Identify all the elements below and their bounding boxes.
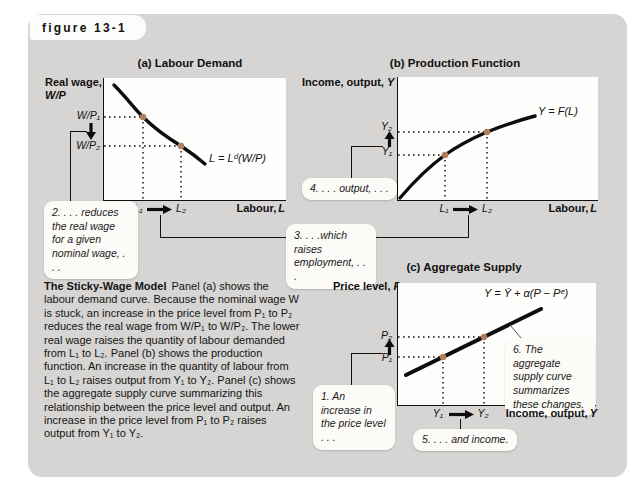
note-2: 2. . . . reduces the real wage for a giv… xyxy=(44,201,138,279)
right-arrow-icon xyxy=(448,409,475,420)
production-function-curve xyxy=(400,116,535,198)
panel-a-curve-label: L = Lᵈ(W/P) xyxy=(209,152,266,164)
caption-heading: The Sticky-Wage Model xyxy=(44,280,166,292)
panel-a-x-axis-label-text: Labour, xyxy=(237,202,277,214)
data-point-a1 xyxy=(140,114,146,120)
panel-c-equation: Y = Ȳ + α(P − Pᵉ) xyxy=(484,287,568,299)
connector-note4-horizontal xyxy=(351,146,383,147)
caption-body: Panel (a) shows the labour demand curve.… xyxy=(44,280,299,439)
panel-a-chart xyxy=(104,78,286,200)
note-6: 6. The aggregate supply curve summarizes… xyxy=(505,338,595,416)
panel-a-tick-wp2: W/P₂ xyxy=(58,139,100,151)
panel-a-y-axis-label-text: Real wage, xyxy=(45,76,102,88)
panel-c-y-axis-label: Price level, P xyxy=(333,280,401,293)
note6-pointer-line xyxy=(510,325,521,338)
right-arrow-icon xyxy=(146,204,173,215)
connector-note2-vertical xyxy=(70,131,71,202)
panel-a-tick-l2: L₂ xyxy=(173,202,189,214)
panel-a-plot-area xyxy=(103,78,286,201)
panel-c-y-axis-label-text: Price level, xyxy=(333,280,391,292)
panel-b-title: (b) Production Function xyxy=(330,57,580,69)
connector-note1-vertical xyxy=(351,353,352,386)
panel-b-tick-l1: L₁ xyxy=(436,202,452,214)
connector-note3-right xyxy=(376,237,469,238)
data-point-b1 xyxy=(442,152,448,158)
panel-b-x-axis-label: Labour,L xyxy=(512,202,597,214)
panel-a-tick-wp1: W/P₁ xyxy=(58,109,100,121)
panel-b-tick-l2: L₂ xyxy=(479,202,495,214)
panel-a-x-axis-label: Labour,L xyxy=(200,202,285,214)
note-1: 1. An increase in the price level . . . xyxy=(313,385,395,450)
panel-b-x-axis-label-var: L xyxy=(590,202,597,214)
data-point-a2 xyxy=(178,143,184,149)
panel-b-x-axis-label-text: Labour, xyxy=(549,202,589,214)
data-point-b2 xyxy=(484,129,490,135)
connector-note4-vertical xyxy=(351,146,352,180)
figure-caption: The Sticky-Wage ModelPanel (a) shows the… xyxy=(44,280,300,441)
connector-note2-horizontal xyxy=(70,131,87,132)
connector-note1-horizontal xyxy=(351,353,383,354)
right-arrow-icon xyxy=(452,204,479,215)
data-point-c1 xyxy=(440,354,446,360)
panel-a-y-axis-label-var: W/P xyxy=(45,89,66,101)
panel-c-tick-y2: Y₂ xyxy=(475,407,491,419)
panel-b-curve-label: Y = F(L) xyxy=(538,105,578,117)
figure-number-tab: figure 13-1 xyxy=(30,15,146,40)
note-4: 4. . . . output, . . . xyxy=(302,178,397,200)
panel-a-y-axis-label: Real wage, W/P xyxy=(45,76,102,102)
panel-b-chart xyxy=(398,77,598,200)
panel-b-y-axis-label-text: Income, output, xyxy=(302,76,384,88)
connector-note3-left xyxy=(160,237,287,238)
panel-c-title: (c) Aggregate Supply xyxy=(330,261,598,273)
figure-number-label: figure 13-1 xyxy=(42,21,127,35)
figure-13-1: figure 13-1 (a) Labour Demand Real wage,… xyxy=(0,0,637,488)
panel-c-x-axis-label: Income, output,Y xyxy=(495,407,597,419)
panel-b-y-axis-label: Income, output, Y xyxy=(302,76,394,89)
note-3: 3. . . .which raises employment, . . . xyxy=(286,224,376,289)
connector-panel-b-stub xyxy=(468,215,469,238)
panel-b-y-axis-label-var: Y xyxy=(387,76,394,88)
data-point-c2 xyxy=(481,334,487,340)
panel-a-title: (a) Labour Demand xyxy=(95,57,285,69)
panel-c-x-axis-label-text: Income, output, xyxy=(506,407,588,419)
panel-b-plot-area xyxy=(397,77,598,201)
labour-demand-curve xyxy=(114,85,205,164)
panel-c-tick-y1: Y₁ xyxy=(430,407,446,419)
connector-panel-a-stub xyxy=(160,215,161,238)
note-5: 5. . . . and income. xyxy=(413,429,517,451)
panel-a-x-axis-label-var: L xyxy=(278,202,285,214)
panel-c-x-axis-label-var: Y xyxy=(590,407,597,419)
